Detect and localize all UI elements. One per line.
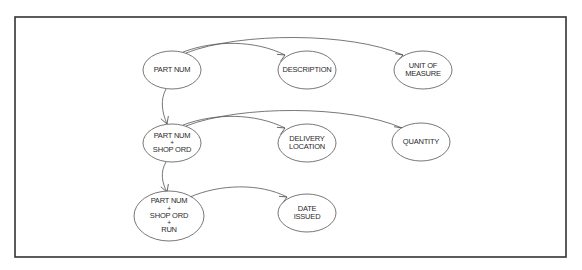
edge-line — [162, 89, 167, 124]
node-layer — [134, 51, 452, 241]
node-description — [278, 51, 336, 89]
node-delivery-location — [278, 124, 336, 162]
edge-line — [162, 162, 167, 192]
node-part-num — [143, 51, 201, 89]
node-part-num-shop-ord — [143, 124, 201, 162]
diagram-canvas — [0, 0, 582, 270]
edge-line — [190, 187, 287, 197]
node-quantity — [392, 123, 450, 161]
node-part-num-shop-ord-run — [134, 191, 204, 241]
edge-line — [186, 110, 402, 128]
edge-part_num_shop_ord-to-delivery_location — [183, 116, 287, 134]
node-date-issued — [278, 194, 336, 232]
node-unit-of-measure — [394, 51, 452, 89]
edge-part_num-to-part_num_shop_ord — [161, 89, 171, 125]
edge-part_num_shop_ord-to-part_num_shop_ord_run — [161, 162, 171, 193]
edge-part_num-to-description — [183, 43, 287, 61]
edge-part_num_shop_ord_run-to-date_issued — [190, 187, 289, 204]
